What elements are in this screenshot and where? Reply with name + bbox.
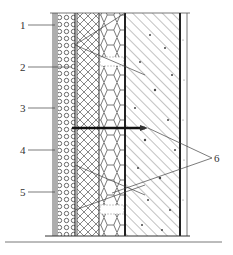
label-1: 1: [20, 19, 26, 31]
plaster-dots: [182, 39, 184, 200]
insulation-core-layer: [99, 13, 125, 236]
label-3: 3: [20, 102, 26, 114]
label-2: 2: [20, 61, 26, 73]
label-5: 5: [20, 186, 26, 198]
wall-section-diagram: 1 2 3 4 5 6: [0, 0, 233, 255]
label-4: 4: [20, 144, 26, 156]
finish-layer: [53, 13, 57, 236]
mortar-layer: [58, 13, 75, 236]
concrete-wall-layer: [126, 13, 180, 236]
label-6: 6: [214, 152, 220, 164]
